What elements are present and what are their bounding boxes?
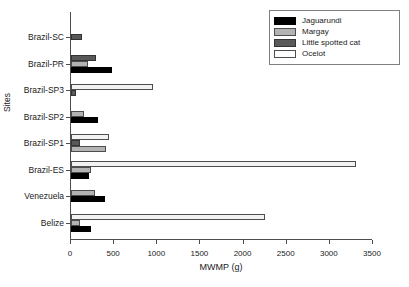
x-tick bbox=[329, 240, 330, 244]
legend-item: Ocelot bbox=[274, 49, 394, 58]
legend-swatch-margay bbox=[274, 28, 296, 36]
legend-label: Jaguarundi bbox=[302, 16, 342, 25]
x-tick bbox=[243, 240, 244, 244]
x-tick bbox=[113, 240, 114, 244]
y-tick bbox=[66, 90, 70, 91]
y-tick-label: Brazil-SP1 bbox=[24, 138, 64, 148]
bar-chart-figure: 0500100015002000250030003500 Brazil-SCBr… bbox=[0, 0, 409, 287]
x-axis-title: MWMP (g) bbox=[70, 262, 372, 272]
legend-swatch-jaguarundi bbox=[274, 17, 296, 25]
bar-margay bbox=[71, 146, 106, 152]
x-tick bbox=[199, 240, 200, 244]
y-tick-label: Brazil-SP2 bbox=[24, 112, 64, 122]
y-tick-label: Brazil-PR bbox=[28, 59, 64, 69]
bar-jaguarundi bbox=[71, 67, 112, 73]
y-tick bbox=[66, 170, 70, 171]
legend-swatch-littlespotted bbox=[274, 39, 296, 47]
y-tick bbox=[66, 223, 70, 224]
x-tick-label: 2500 bbox=[277, 249, 295, 258]
y-tick bbox=[66, 37, 70, 38]
legend-swatch-ocelot bbox=[274, 50, 296, 58]
y-axis-title: Sites bbox=[2, 93, 12, 112]
x-tick bbox=[156, 240, 157, 244]
y-tick-label: Brazil-ES bbox=[29, 165, 64, 175]
bar-littlespotted bbox=[71, 90, 76, 96]
legend-label: Little spotted cat bbox=[302, 38, 360, 47]
y-tick bbox=[66, 64, 70, 65]
bar-ocelot bbox=[71, 84, 153, 90]
legend-label: Margay bbox=[302, 27, 329, 36]
x-tick bbox=[372, 240, 373, 244]
x-tick bbox=[70, 240, 71, 244]
x-tick-label: 0 bbox=[68, 249, 72, 258]
legend-item: Margay bbox=[274, 27, 394, 36]
x-tick-label: 3000 bbox=[320, 249, 338, 258]
x-tick-label: 1500 bbox=[191, 249, 209, 258]
legend-item: Jaguarundi bbox=[274, 16, 394, 25]
legend: JaguarundiMargayLittle spotted catOcelot bbox=[269, 10, 400, 65]
bar-jaguarundi bbox=[71, 173, 89, 179]
bar-jaguarundi bbox=[71, 196, 105, 202]
y-axis-line bbox=[70, 12, 71, 240]
y-tick bbox=[66, 117, 70, 118]
y-tick-label: Venezuela bbox=[24, 191, 64, 201]
legend-item: Little spotted cat bbox=[274, 38, 394, 47]
bar-jaguarundi bbox=[71, 117, 98, 123]
x-tick-label: 2000 bbox=[234, 249, 252, 258]
y-tick-label: Brazil-SC bbox=[28, 32, 64, 42]
x-tick-label: 500 bbox=[106, 249, 119, 258]
y-tick bbox=[66, 196, 70, 197]
bar-ocelot bbox=[71, 161, 356, 167]
y-tick bbox=[66, 143, 70, 144]
legend-label: Ocelot bbox=[302, 49, 325, 58]
x-axis-line bbox=[70, 239, 372, 240]
bar-jaguarundi bbox=[71, 226, 91, 232]
x-tick bbox=[286, 240, 287, 244]
x-tick-label: 1000 bbox=[147, 249, 165, 258]
bar-littlespotted bbox=[71, 34, 82, 40]
bar-ocelot bbox=[71, 214, 265, 220]
y-tick-label: Brazil-SP3 bbox=[24, 85, 64, 95]
x-tick-label: 3500 bbox=[363, 249, 381, 258]
y-tick-label: Belize bbox=[41, 218, 64, 228]
